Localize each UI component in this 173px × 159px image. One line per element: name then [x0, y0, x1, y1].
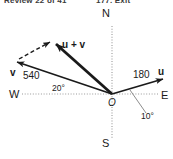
compass-label-west: W — [9, 89, 19, 100]
vector-u-plus-v-label: u + v — [62, 40, 85, 50]
dashed-translated-u-arrow — [19, 42, 50, 59]
compass-label-south: S — [102, 138, 109, 149]
origin-label: O — [108, 98, 116, 108]
angle-20-label: 20° — [52, 84, 65, 93]
angle-10-label: 10° — [141, 112, 154, 121]
compass-label-east: E — [161, 90, 168, 101]
vector-u-arrow — [112, 79, 163, 94]
vector-u-label: u — [158, 67, 164, 77]
vector-v-magnitude-label: 540 — [23, 71, 40, 81]
vector-u-magnitude-label: 180 — [133, 70, 150, 80]
vector-diagram-figure: Review 22 of 41 177. Exit N — [0, 0, 173, 159]
compass-label-north: N — [102, 8, 110, 19]
vector-v-label: v — [10, 68, 16, 78]
